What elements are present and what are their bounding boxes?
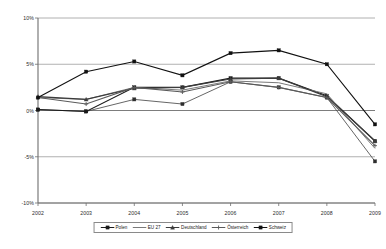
data-point-marker xyxy=(105,226,108,229)
data-point-marker xyxy=(259,226,262,229)
data-point-marker xyxy=(181,74,184,77)
data-point-marker xyxy=(133,98,136,101)
data-point-marker xyxy=(277,49,280,52)
legend-key-icon xyxy=(212,224,226,231)
data-point-marker xyxy=(36,96,39,99)
legend-entry-2: Deutschland xyxy=(166,224,207,231)
line-chart: 10%5%0%-5%-10% 2002200320042005200620072… xyxy=(0,0,386,249)
legend-entry-1: EU 27 xyxy=(132,224,160,231)
legend-entry-3: Österreich xyxy=(212,224,249,231)
series-line-0 xyxy=(38,78,375,141)
data-point-marker xyxy=(373,160,376,163)
legend-entry-4: Schweiz xyxy=(253,224,286,231)
x-axis-tick-label: 2007 xyxy=(264,210,294,216)
x-axis-tick-label: 2009 xyxy=(360,210,386,216)
x-axis-tick-label: 2006 xyxy=(216,210,246,216)
y-axis-tick-label: 5% xyxy=(4,61,34,67)
legend-label: Österreich xyxy=(227,224,248,231)
legend-key-icon xyxy=(166,224,180,231)
data-point-marker xyxy=(36,108,39,111)
legend-key-icon xyxy=(253,224,267,231)
data-point-marker xyxy=(217,226,221,230)
series-line-2 xyxy=(38,78,375,141)
series-line-3 xyxy=(38,82,375,146)
data-point-marker xyxy=(85,70,88,73)
y-axis-tick-label: 0% xyxy=(4,108,34,114)
data-point-marker xyxy=(85,110,88,113)
data-point-marker xyxy=(325,63,328,66)
series-layer xyxy=(36,49,377,163)
x-axis-tick-label: 2005 xyxy=(167,210,197,216)
chart-legend: PolenEU 27DeutschlandÖsterreichSchweiz xyxy=(94,222,293,233)
legend-label: Polen xyxy=(116,224,128,231)
y-axis-tick-label: -5% xyxy=(4,154,34,160)
series-line-1 xyxy=(38,81,375,149)
legend-label: EU 27 xyxy=(148,224,161,231)
data-point-marker xyxy=(180,90,184,94)
x-axis-tick-label: 2004 xyxy=(119,210,149,216)
x-axis-tick-label: 2008 xyxy=(312,210,342,216)
data-point-marker xyxy=(84,102,88,106)
x-axis-tick-label: 2002 xyxy=(23,210,53,216)
data-point-marker xyxy=(181,102,184,105)
legend-label: Deutschland xyxy=(181,224,207,231)
data-point-marker xyxy=(229,52,232,55)
data-point-marker xyxy=(133,60,136,63)
legend-key-icon xyxy=(100,224,114,231)
y-axis-tick-label: -10% xyxy=(4,200,34,206)
data-point-marker xyxy=(373,123,376,126)
x-axis-tick-label: 2003 xyxy=(71,210,101,216)
legend-key-icon xyxy=(132,224,146,231)
legend-entry-0: Polen xyxy=(100,224,127,231)
legend-label: Schweiz xyxy=(269,224,286,231)
y-axis-tick-label: 10% xyxy=(4,15,34,21)
